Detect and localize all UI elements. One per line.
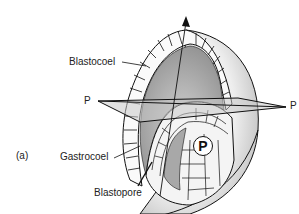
label-gastrocoel: Gastrocoel [60, 152, 108, 162]
label-plane-right: P [290, 101, 297, 111]
label-blastopore: Blastopore [94, 188, 142, 198]
label-plane-left: P [84, 96, 91, 106]
panel-label: (a) [16, 151, 28, 161]
pole-marker-p: P [193, 136, 213, 156]
gastrula-diagram [0, 0, 299, 214]
axis-arrowhead [182, 16, 190, 27]
label-blastocoel: Blastocoel [69, 57, 115, 67]
pole-marker-text: P [198, 138, 207, 154]
